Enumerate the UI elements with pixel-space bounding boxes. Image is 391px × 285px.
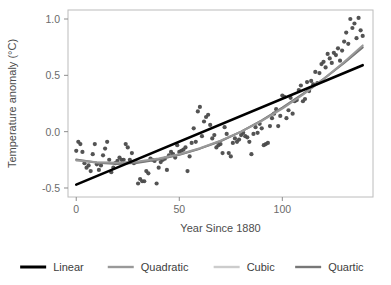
data-point	[352, 21, 356, 25]
data-point	[266, 141, 270, 145]
x-tick-label: 50	[173, 203, 185, 215]
data-point	[202, 119, 206, 123]
data-point	[268, 124, 272, 128]
data-point	[190, 141, 194, 145]
data-point	[255, 131, 259, 135]
data-point	[126, 145, 130, 149]
data-point	[361, 34, 365, 38]
data-point	[103, 146, 107, 150]
legend-label-linear: Linear	[53, 261, 84, 273]
data-point	[278, 114, 282, 118]
data-point	[324, 65, 328, 69]
y-tick-label: 1.0	[45, 13, 60, 25]
data-point	[80, 150, 84, 154]
x-axis-title: Year Since 1880	[180, 222, 260, 234]
data-point	[157, 166, 161, 170]
data-point	[225, 132, 229, 136]
chart-canvas: 050100-0.50.00.51.0Year Since 1880Temper…	[0, 0, 391, 285]
data-point	[284, 116, 288, 120]
data-point	[146, 171, 150, 175]
data-point	[130, 151, 134, 155]
data-point	[107, 158, 111, 162]
data-point	[229, 154, 233, 158]
data-point	[291, 112, 295, 116]
data-point	[185, 169, 189, 173]
data-point	[313, 70, 317, 74]
data-point	[330, 61, 334, 65]
data-point	[317, 71, 321, 75]
data-point	[101, 153, 105, 157]
legend-label-cubic: Cubic	[247, 261, 276, 273]
x-tick-label: 0	[73, 203, 79, 215]
data-point	[338, 59, 342, 63]
data-point	[326, 52, 330, 56]
data-point	[348, 17, 352, 21]
data-point	[342, 39, 346, 43]
data-point	[251, 132, 255, 136]
data-point	[303, 97, 307, 101]
data-point	[260, 126, 264, 130]
data-point	[286, 108, 290, 112]
data-point	[183, 145, 187, 149]
data-point	[346, 42, 350, 46]
data-point	[89, 169, 93, 173]
data-point	[142, 179, 146, 183]
data-point	[356, 16, 360, 20]
data-point	[97, 168, 101, 172]
data-point	[91, 152, 95, 156]
data-point	[196, 109, 200, 113]
data-point	[74, 149, 78, 153]
y-axis-title: Temperature anomaly (°C)	[6, 39, 18, 168]
data-point	[192, 126, 196, 130]
data-point	[165, 168, 169, 172]
chart-figure: 050100-0.50.00.51.0Year Since 1880Temper…	[0, 0, 391, 285]
data-point	[231, 141, 235, 145]
data-point	[350, 26, 354, 30]
data-point	[105, 140, 109, 144]
data-point	[78, 142, 82, 146]
data-point	[237, 137, 241, 141]
y-tick-label: 0.0	[45, 126, 60, 138]
data-point	[340, 48, 344, 52]
legend-label-quadratic: Quadratic	[141, 261, 189, 273]
legend-label-quartic: Quartic	[328, 261, 364, 273]
data-point	[155, 181, 159, 185]
data-point	[245, 135, 249, 139]
data-point	[276, 124, 280, 128]
data-point	[344, 30, 348, 34]
data-point	[194, 140, 198, 144]
data-point	[328, 56, 332, 60]
data-point	[212, 133, 216, 137]
data-point	[87, 163, 91, 167]
data-point	[305, 80, 309, 84]
data-point	[198, 105, 202, 109]
data-point	[200, 134, 204, 138]
data-point	[247, 140, 251, 144]
data-point	[93, 142, 97, 146]
x-tick-label: 100	[274, 203, 292, 215]
data-point	[321, 60, 325, 64]
data-point	[208, 123, 212, 127]
data-point	[187, 154, 191, 158]
y-tick-label: -0.5	[42, 182, 60, 194]
data-point	[206, 113, 210, 117]
data-point	[354, 36, 358, 40]
data-point	[136, 181, 140, 185]
data-point	[223, 125, 227, 129]
y-tick-label: 0.5	[45, 69, 60, 81]
data-point	[299, 83, 303, 87]
data-point	[249, 152, 253, 156]
data-point	[336, 46, 340, 50]
data-point	[359, 28, 363, 32]
data-point	[334, 53, 338, 57]
data-point	[220, 151, 224, 155]
